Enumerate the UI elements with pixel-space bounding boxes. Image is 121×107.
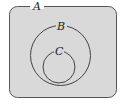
set-c-label: C (55, 45, 64, 58)
set-b-label: B (56, 20, 65, 33)
venn-diagram: A B C (0, 0, 121, 107)
set-a-label: A (32, 0, 41, 13)
